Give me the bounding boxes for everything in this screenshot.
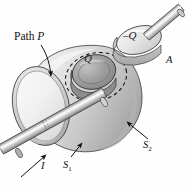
label-path-p-prefix: Path xyxy=(14,30,37,42)
label-path-p: Path P xyxy=(14,31,44,43)
label-surface-s2-sub: 2 xyxy=(148,145,152,153)
label-surface-s1-sub: 1 xyxy=(68,165,72,173)
label-surface-s2: S2 xyxy=(143,140,152,153)
plate-rod xyxy=(143,4,185,40)
label-surface-s1: S1 xyxy=(63,160,72,173)
physics-figure: Path P Q –Q A I S1 S2 xyxy=(0,0,192,188)
label-charge-negative-q: –Q xyxy=(123,30,136,41)
label-charge-q: Q xyxy=(84,53,92,64)
label-area-a: A xyxy=(166,55,172,66)
label-current-i: I xyxy=(41,161,45,172)
figure-illustration xyxy=(0,0,192,188)
label-path-p-symbol: P xyxy=(37,30,44,42)
